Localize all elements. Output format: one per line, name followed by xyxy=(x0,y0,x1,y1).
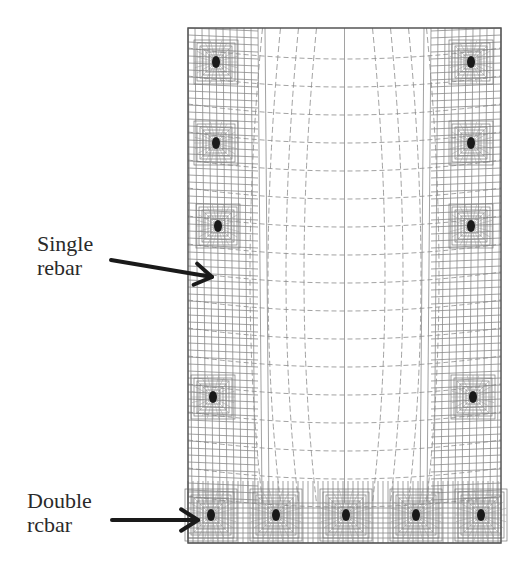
single-rebar-label-line1: Single xyxy=(37,232,93,256)
single-rebar xyxy=(449,40,493,84)
single-rebar xyxy=(451,375,495,419)
double-rebar xyxy=(320,489,372,541)
single-rebar xyxy=(194,121,238,165)
coarse-mesh xyxy=(188,28,501,543)
single-rebar xyxy=(449,121,493,165)
single-rebar xyxy=(194,40,238,84)
double-rebar-label-line1: Double xyxy=(27,489,92,513)
double-rebar-label: Double rcbar xyxy=(27,489,92,537)
single-rebar xyxy=(196,204,240,248)
single-rebar-label-line2: rebar xyxy=(37,256,93,280)
single-rebar xyxy=(449,204,493,248)
single-rebar xyxy=(191,375,235,419)
mesh-diagram xyxy=(0,0,530,569)
single-rebar-label: Single rebar xyxy=(37,232,93,280)
double-rebar xyxy=(455,489,507,541)
fem-mesh-figure: Single rebar Double rcbar xyxy=(0,0,530,569)
double-rebar xyxy=(390,489,442,541)
double-rebar xyxy=(250,489,302,541)
double-rebar-label-line2: rcbar xyxy=(27,513,92,537)
